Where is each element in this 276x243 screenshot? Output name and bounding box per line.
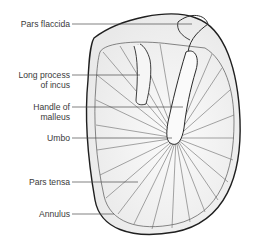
label-handle-line1: Handle of xyxy=(33,102,70,112)
label-annulus: Annulus xyxy=(39,209,70,219)
label-umbo: Umbo xyxy=(47,133,70,143)
annulus-outline xyxy=(86,14,240,234)
label-handle-malleus: Handle of malleus xyxy=(33,102,70,122)
label-pars-tensa: Pars tensa xyxy=(29,177,70,187)
label-handle-line2: malleus xyxy=(33,112,70,122)
label-long-process-line2: of incus xyxy=(18,80,70,90)
tympanic-membrane-diagram: Pars flaccida Long process of incus Hand… xyxy=(0,0,276,243)
label-pars-flaccida: Pars flaccida xyxy=(21,19,70,29)
label-long-process-incus: Long process of incus xyxy=(18,70,70,90)
label-long-process-line1: Long process xyxy=(18,70,70,80)
